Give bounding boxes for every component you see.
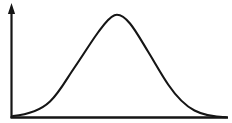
chart-canvas: [0, 0, 232, 123]
plot-background: [0, 0, 232, 123]
bell-curve-figure: [0, 0, 232, 123]
